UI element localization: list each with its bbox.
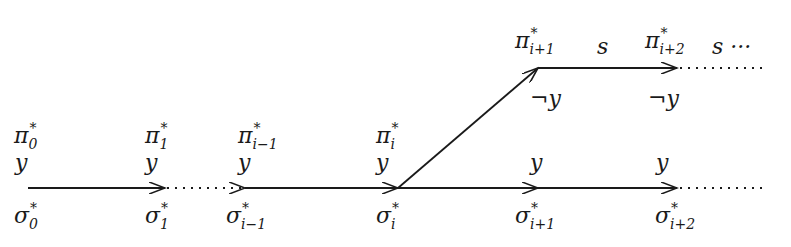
label-sigma0: σ*0	[14, 205, 38, 227]
label-pi-i: π*i	[376, 125, 395, 147]
label-pi-i-minus-1: π*i−1	[238, 125, 278, 147]
label-sigma-i-minus-1: σ*i−1	[226, 205, 266, 227]
label-sigma-i: σ*i	[376, 205, 396, 227]
label-pi-i-plus-1: π*i+1	[515, 30, 555, 52]
prop-y-i-plus-1: y	[530, 152, 542, 174]
label-sigma1: σ*1	[145, 205, 169, 227]
label-sigma-i-plus-2: σ*i+2	[655, 205, 695, 227]
label-pi1: π*1	[145, 125, 168, 147]
label-sigma-i-plus-1: σ*i+1	[515, 205, 555, 227]
edge-label-s-1: s	[597, 36, 608, 58]
prop-not-y-i-plus-1: ¬y	[530, 88, 561, 110]
prop-y-i-minus-1: y	[238, 152, 250, 174]
prop-y-0: y	[15, 152, 27, 174]
prop-y-i-plus-2: y	[656, 152, 668, 174]
prop-y-i: y	[376, 152, 388, 174]
edge-label-s-continuation: s ···	[712, 36, 751, 58]
prop-y-1: y	[145, 152, 157, 174]
label-pi-i-plus-2: π*i+2	[645, 30, 685, 52]
label-pi0: π*0	[14, 125, 37, 147]
prop-not-y-i-plus-2: ¬y	[648, 88, 679, 110]
edge-branch-sigmai-pii1	[398, 68, 538, 188]
